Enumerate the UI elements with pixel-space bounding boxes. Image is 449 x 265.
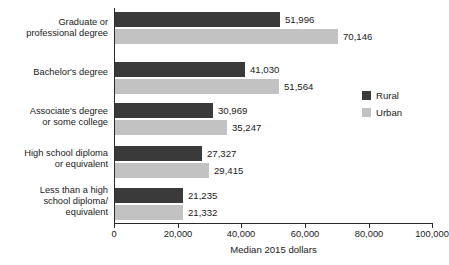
x-tick-label-100000: 100,000 xyxy=(415,229,449,240)
bar-urban-associates xyxy=(115,120,227,135)
x-tick-80000 xyxy=(369,224,370,228)
bar-value-urban-highschool: 29,415 xyxy=(214,163,243,178)
x-tick-label-20000: 20,000 xyxy=(164,229,192,240)
x-axis-line xyxy=(114,223,433,224)
bar-value-rural-lessthanhighschool: 21,235 xyxy=(188,188,217,203)
bar-value-rural-highschool: 27,327 xyxy=(207,146,236,161)
x-tick-0 xyxy=(114,224,115,228)
category-axis-labels: Graduate or professional degree Bachelor… xyxy=(0,0,112,222)
bar-urban-highschool xyxy=(115,163,209,178)
x-tick-40000 xyxy=(241,224,242,228)
bar-rural-associates xyxy=(115,103,213,118)
x-tick-label-40000: 40,000 xyxy=(227,229,255,240)
category-label-bachelors: Bachelor's degree xyxy=(0,67,108,78)
bar-value-urban-associates: 35,247 xyxy=(232,120,261,135)
legend-item-urban: Urban xyxy=(362,105,442,119)
legend-label-urban: Urban xyxy=(376,107,402,118)
bar-urban-bachelors xyxy=(115,79,279,94)
x-tick-20000 xyxy=(178,224,179,228)
bar-rural-graduate xyxy=(115,12,280,27)
x-axis-title: Median 2015 dollars xyxy=(114,244,433,255)
x-tick-60000 xyxy=(305,224,306,228)
category-label-highschool: High school diploma or equivalent xyxy=(0,148,108,170)
bar-value-urban-graduate: 70,146 xyxy=(343,29,372,44)
bar-urban-lessthanhighschool xyxy=(115,205,183,220)
category-label-graduate: Graduate or professional degree xyxy=(0,17,108,39)
category-label-lessthanhighschool: Less than a high school diploma/ equival… xyxy=(0,185,108,219)
x-tick-label-80000: 80,000 xyxy=(355,229,383,240)
chart-legend: Rural Urban xyxy=(362,88,442,122)
legend-swatch-rural-icon xyxy=(362,91,371,100)
category-label-associates: Associate's degree or some college xyxy=(0,106,108,128)
legend-label-rural: Rural xyxy=(376,90,399,101)
bar-value-rural-graduate: 51,996 xyxy=(285,12,314,27)
bar-value-urban-bachelors: 51,564 xyxy=(284,79,313,94)
bar-value-rural-associates: 30,969 xyxy=(218,103,247,118)
bar-rural-bachelors xyxy=(115,62,245,77)
legend-swatch-urban-icon xyxy=(362,108,371,117)
bar-rural-highschool xyxy=(115,146,202,161)
bar-value-urban-lessthanhighschool: 21,332 xyxy=(188,205,217,220)
legend-item-rural: Rural xyxy=(362,88,442,102)
bar-urban-graduate xyxy=(115,29,338,44)
x-tick-label-0: 0 xyxy=(111,229,116,240)
x-tick-100000 xyxy=(432,224,433,228)
x-tick-label-60000: 60,000 xyxy=(291,229,319,240)
bar-value-rural-bachelors: 41,030 xyxy=(250,62,279,77)
bar-rural-lessthanhighschool xyxy=(115,188,183,203)
